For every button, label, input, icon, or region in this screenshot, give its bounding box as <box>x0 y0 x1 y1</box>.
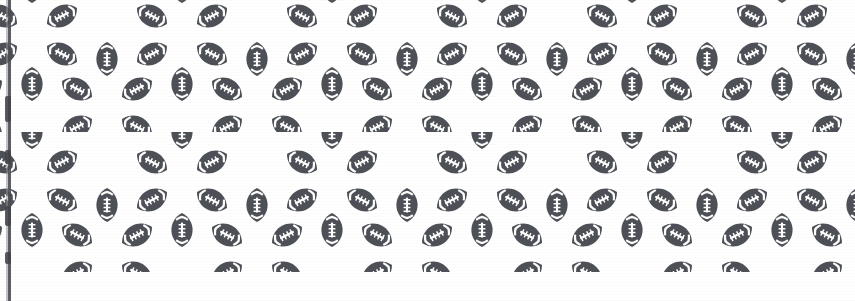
scan-edge-blot <box>5 252 11 264</box>
bottom-margin <box>0 272 855 301</box>
football-pattern-svg: .fb-body{fill:#4d5056;} .fb-stitch{fill:… <box>0 0 855 272</box>
scan-edge-blot <box>5 206 11 226</box>
scan-edge-blot <box>5 96 11 122</box>
football-pattern-field: .fb-body{fill:#4d5056;} .fb-stitch{fill:… <box>0 0 855 272</box>
scan-edge-blot <box>5 150 11 164</box>
pattern-swatch-canvas: Seamless Football Pattern Swatch Repeati… <box>0 0 855 301</box>
